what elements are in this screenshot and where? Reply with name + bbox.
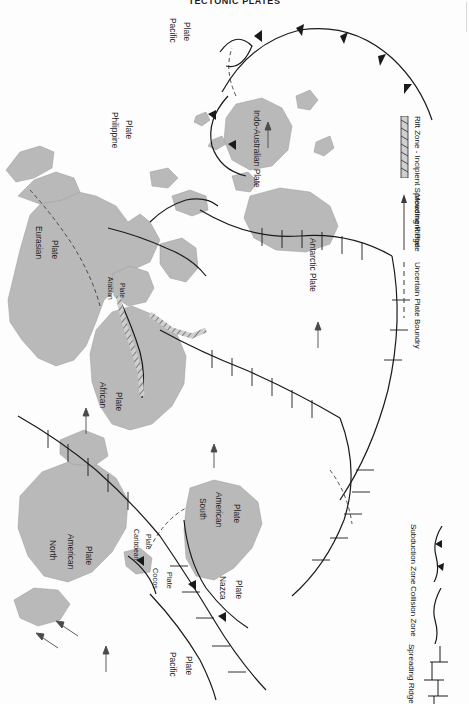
plate-label-line: African [98,382,108,408]
legend-label-subduction: Subduction Zone [409,524,418,585]
plate-label-south-american-2: American [214,492,224,527]
plate-label-pacific-south-2: Plate [184,656,194,675]
plate-label-line: Pacific [168,18,178,43]
plate-label-north-american-3: Plate [84,546,94,565]
plate-label-line: Caribbean [133,529,140,560]
plate-label-line: Arabian [107,277,114,300]
plate-label-antarctic: Antarctic Plate [308,238,318,292]
plate-label-south-american: South [198,498,208,520]
plate-label-line: North [48,540,58,560]
page-edge-mark [466,2,467,32]
plate-label-line: American [66,534,76,569]
plate-label-line: Nazca [218,576,228,600]
plate-label-indo-australian: Indo-Australian Plate [252,110,262,188]
plate-label-nazca-2: Plate [234,580,244,599]
plate-label-line: Indo-Australian Plate [252,110,262,188]
plate-label-line: Plate [50,240,60,259]
arrow-icon [399,194,409,254]
plate-label-pacific-north: Pacific [168,18,178,43]
tectonic-plates-figure: TECTONIC PLATES [0,0,469,704]
plate-label-cocos-2: Plate [165,572,174,589]
plate-label-line: Plate [184,656,194,675]
plate-label-line: Plate [234,580,244,599]
plate-label-pacific-south: Pacific [168,652,178,677]
plate-label-arabian: Arabian [107,277,114,300]
legend-fault-types: Subduction Zone Collision Zone [396,524,466,704]
ridge-offset-icon [422,646,452,704]
legend-boundary-types: Rift Zone - Incipient Spreading Ridge Mo… [396,116,466,316]
plate-label-eurasian: Eurasian [34,226,44,259]
plate-label-line: Plate [114,392,124,411]
plate-label-african: African [98,382,108,408]
dashed-line-icon [399,262,409,322]
plate-label-arabian-2: Plate [119,283,126,298]
legend-label-spreading-offset: Spreading Ridge Offset by Transform Faul… [407,644,416,704]
plate-label-line: Cocos [151,568,160,589]
plate-label-line: Plate [119,283,126,298]
plate-label-line: Plate [145,534,152,550]
plate-label-cocos: Cocos [151,568,160,589]
legend-label-plate-motion: Movement Plate [413,194,422,252]
hatched-band-icon [398,116,412,182]
plate-label-line: Pacific [168,652,178,677]
barbed-curve-icon [426,526,452,586]
plate-label-line: Philippine [110,112,120,148]
plate-label-north-american: North [48,540,58,560]
plate-label-line: South [198,498,208,520]
plate-label-line: Plate [232,504,242,523]
plate-label-line: Eurasian [34,226,44,259]
plate-label-philippine: Philippine [110,112,120,148]
plate-label-pacific-north-2: Plate [182,22,192,41]
plate-label-line: Plate [165,572,174,589]
legend-label-collision: Collision Zone [409,586,418,637]
plate-label-eurasian-2: Plate [50,240,60,259]
plate-label-north-american-2: American [66,534,76,569]
legend-label-uncertain: Uncertain Plate Boundry [413,262,422,349]
plate-label-caribbean: Caribbean [133,529,140,560]
plate-label-line: Plate [182,22,192,41]
plate-label-caribbean-2: Plate [145,534,152,550]
plate-label-nazca: Nazca [218,576,228,600]
plate-label-line: Plate [124,120,134,139]
plain-curve-icon [426,588,452,648]
plate-label-south-american-3: Plate [232,504,242,523]
plate-label-line: American [214,492,224,527]
plate-label-line: Plate [84,546,94,565]
plate-label-philippine-2: Plate [124,120,134,139]
plate-label-african-2: Plate [114,392,124,411]
plate-label-line: Antarctic Plate [308,238,318,292]
